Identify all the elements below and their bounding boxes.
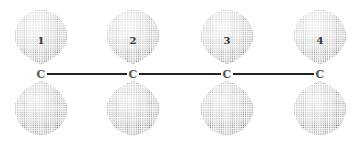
p-orbital-lobe-down-1 <box>15 81 67 135</box>
p-orbital-lobe-down-4 <box>294 81 346 135</box>
orbital-lobes-layer <box>0 0 362 143</box>
orbital-number-label: 1 <box>38 35 45 46</box>
sigma-bond-line <box>47 73 127 75</box>
carbon-atom-label: C <box>37 68 46 81</box>
carbon-atom-label: C <box>129 68 138 81</box>
carbon-atom-label: C <box>223 68 232 81</box>
p-orbital-lobe-down-2 <box>107 81 159 135</box>
sigma-bond-line <box>139 73 221 75</box>
orbital-number-label: 4 <box>317 35 324 46</box>
orbital-number-label: 3 <box>224 35 231 46</box>
orbital-diagram: 1C2C3C4C <box>0 0 362 143</box>
p-orbital-lobe-down-3 <box>201 81 253 135</box>
orbital-number-label: 2 <box>130 35 137 46</box>
carbon-atom-label: C <box>316 68 325 81</box>
sigma-bond-line <box>233 73 314 75</box>
